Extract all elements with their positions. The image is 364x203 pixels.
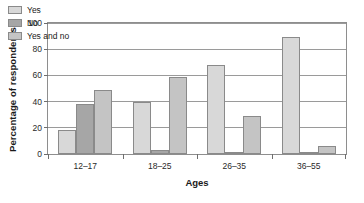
legend-item-label: Yes and no bbox=[27, 31, 69, 41]
x-axis-tick-label: 26–35 bbox=[222, 161, 246, 171]
x-axis-title: Ages bbox=[47, 177, 347, 188]
gridline bbox=[48, 75, 346, 76]
legend-item-yes[interactable]: Yes bbox=[8, 4, 69, 15]
bar-no-36-55 bbox=[300, 152, 318, 154]
x-axis-tick-label: 12–17 bbox=[73, 161, 97, 171]
legend-swatch-icon bbox=[8, 32, 22, 40]
gridline bbox=[48, 23, 346, 24]
plot-area: 02040608010012–1718–2526–3536–55 bbox=[47, 22, 347, 155]
x-axis-tick bbox=[272, 154, 273, 159]
bar-no-26-35 bbox=[225, 152, 243, 154]
y-axis-tick-label: 20 bbox=[33, 123, 42, 133]
bar-yes-and-no-18-25 bbox=[169, 77, 187, 154]
legend-item-yes-and-no[interactable]: Yes and no bbox=[8, 30, 69, 41]
bar-chart-figure: Percentage of respondents 02040608010012… bbox=[0, 0, 364, 203]
y-axis-tick bbox=[44, 127, 48, 128]
legend-item-label: No bbox=[27, 18, 38, 28]
bar-yes-12-17 bbox=[58, 130, 76, 154]
legend-swatch-icon bbox=[8, 6, 22, 14]
bar-no-12-17 bbox=[76, 104, 94, 154]
x-axis-tick-label: 18–25 bbox=[148, 161, 172, 171]
bar-yes-18-25 bbox=[133, 102, 151, 154]
bar-yes-and-no-36-55 bbox=[318, 146, 336, 154]
legend-item-label: Yes bbox=[27, 5, 41, 15]
bar-no-18-25 bbox=[151, 150, 169, 154]
y-axis-tick-label: 60 bbox=[33, 70, 42, 80]
legend-item-no[interactable]: No bbox=[8, 17, 69, 28]
legend-swatch-icon bbox=[8, 19, 22, 27]
y-axis-tick-label: 80 bbox=[33, 44, 42, 54]
bar-yes-and-no-26-35 bbox=[243, 116, 261, 154]
x-axis-tick bbox=[197, 154, 198, 159]
x-axis-tick-label: 36–55 bbox=[297, 161, 321, 171]
y-axis-tick bbox=[44, 101, 48, 102]
x-axis-tick bbox=[48, 154, 49, 159]
bar-yes-36-55 bbox=[282, 37, 300, 154]
y-axis-tick bbox=[44, 49, 48, 50]
y-axis-tick-label: 40 bbox=[33, 97, 42, 107]
bar-yes-and-no-12-17 bbox=[94, 90, 112, 154]
bar-yes-26-35 bbox=[207, 65, 225, 154]
gridline bbox=[48, 49, 346, 50]
y-axis-tick-label: 0 bbox=[37, 149, 42, 159]
x-axis-tick bbox=[345, 154, 346, 159]
x-axis-tick bbox=[123, 154, 124, 159]
gridline bbox=[48, 101, 346, 102]
y-axis-tick bbox=[44, 75, 48, 76]
chart-legend: YesNoYes and no bbox=[8, 4, 69, 41]
